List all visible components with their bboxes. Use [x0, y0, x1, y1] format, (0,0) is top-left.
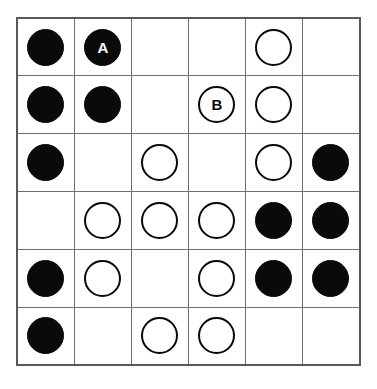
black-stone[interactable]: [312, 202, 349, 239]
board-cell-r1c4[interactable]: [188, 18, 245, 76]
board-cell-r2c6[interactable]: [302, 76, 360, 134]
board-cell-r5c6[interactable]: [302, 249, 360, 307]
board-cell-r3c3[interactable]: [131, 134, 188, 192]
board-cell-r4c5[interactable]: [245, 191, 302, 249]
board-cell-r5c5[interactable]: [245, 249, 302, 307]
board-row: [17, 249, 360, 307]
white-stone[interactable]: [255, 29, 292, 66]
board-container: AB: [16, 17, 361, 366]
white-stone[interactable]: [255, 86, 292, 123]
board-cell-r2c4[interactable]: B: [188, 76, 245, 134]
black-stone[interactable]: [27, 144, 64, 181]
board-cell-r2c5[interactable]: [245, 76, 302, 134]
board-row: B: [17, 76, 360, 134]
board-cell-r1c6[interactable]: [302, 18, 360, 76]
board-cell-r6c4[interactable]: [188, 307, 245, 365]
black-stone[interactable]: [312, 260, 349, 297]
board-cell-r3c6[interactable]: [302, 134, 360, 192]
board-cell-r4c6[interactable]: [302, 191, 360, 249]
board-cell-r6c5[interactable]: [245, 307, 302, 365]
white-stone[interactable]: [198, 317, 235, 354]
board-row: [17, 307, 360, 365]
white-stone[interactable]: [141, 317, 178, 354]
black-stone[interactable]: [27, 260, 64, 297]
board-cell-r2c1[interactable]: [17, 76, 74, 134]
black-stone-a[interactable]: A: [84, 29, 121, 66]
board-cell-r1c1[interactable]: [17, 18, 74, 76]
white-stone[interactable]: [84, 202, 121, 239]
board-cell-r5c3[interactable]: [131, 249, 188, 307]
board-row: [17, 134, 360, 192]
board-cell-r3c2[interactable]: [74, 134, 131, 192]
board-cell-r4c3[interactable]: [131, 191, 188, 249]
board-cell-r1c2[interactable]: A: [74, 18, 131, 76]
stone-label-b: B: [212, 97, 223, 112]
board-cell-r2c2[interactable]: [74, 76, 131, 134]
white-stone[interactable]: [198, 202, 235, 239]
board-cell-r4c4[interactable]: [188, 191, 245, 249]
black-stone[interactable]: [255, 202, 292, 239]
board-cell-r2c3[interactable]: [131, 76, 188, 134]
stone-grid-board: AB: [16, 17, 361, 366]
board-cell-r5c2[interactable]: [74, 249, 131, 307]
board-cell-r3c5[interactable]: [245, 134, 302, 192]
white-stone[interactable]: [255, 144, 292, 181]
white-stone-b[interactable]: B: [198, 86, 235, 123]
board-cell-r3c1[interactable]: [17, 134, 74, 192]
board-row: [17, 191, 360, 249]
board-cell-r4c1[interactable]: [17, 191, 74, 249]
white-stone[interactable]: [141, 202, 178, 239]
white-stone[interactable]: [141, 144, 178, 181]
black-stone[interactable]: [27, 317, 64, 354]
white-stone[interactable]: [198, 260, 235, 297]
black-stone[interactable]: [27, 29, 64, 66]
board-cell-r1c5[interactable]: [245, 18, 302, 76]
board-cell-r6c2[interactable]: [74, 307, 131, 365]
black-stone[interactable]: [27, 86, 64, 123]
white-stone[interactable]: [84, 260, 121, 297]
board-cell-r5c1[interactable]: [17, 249, 74, 307]
black-stone[interactable]: [84, 86, 121, 123]
black-stone[interactable]: [255, 260, 292, 297]
board-cell-r4c2[interactable]: [74, 191, 131, 249]
board-cell-r6c1[interactable]: [17, 307, 74, 365]
board-body: AB: [17, 18, 360, 365]
board-cell-r6c6[interactable]: [302, 307, 360, 365]
board-row: A: [17, 18, 360, 76]
board-cell-r5c4[interactable]: [188, 249, 245, 307]
board-cell-r6c3[interactable]: [131, 307, 188, 365]
board-cell-r1c3[interactable]: [131, 18, 188, 76]
black-stone[interactable]: [312, 144, 349, 181]
stone-label-a: A: [98, 39, 109, 54]
board-cell-r3c4[interactable]: [188, 134, 245, 192]
